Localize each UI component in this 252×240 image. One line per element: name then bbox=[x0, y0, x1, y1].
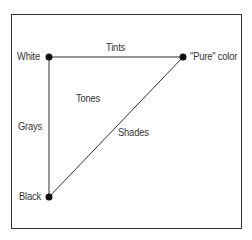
black-node-dot bbox=[46, 194, 53, 201]
pure-color-label: "Pure" color bbox=[190, 50, 237, 62]
white-label: White bbox=[17, 50, 40, 62]
tints-label: Tints bbox=[106, 41, 125, 53]
shades-edge bbox=[49, 57, 183, 197]
shades-label: Shades bbox=[118, 126, 149, 138]
grays-label: Grays bbox=[18, 120, 42, 132]
black-label: Black bbox=[19, 190, 41, 202]
pure-color-node-dot bbox=[180, 54, 187, 61]
white-node-dot bbox=[46, 54, 53, 61]
tones-label: Tones bbox=[76, 92, 100, 104]
